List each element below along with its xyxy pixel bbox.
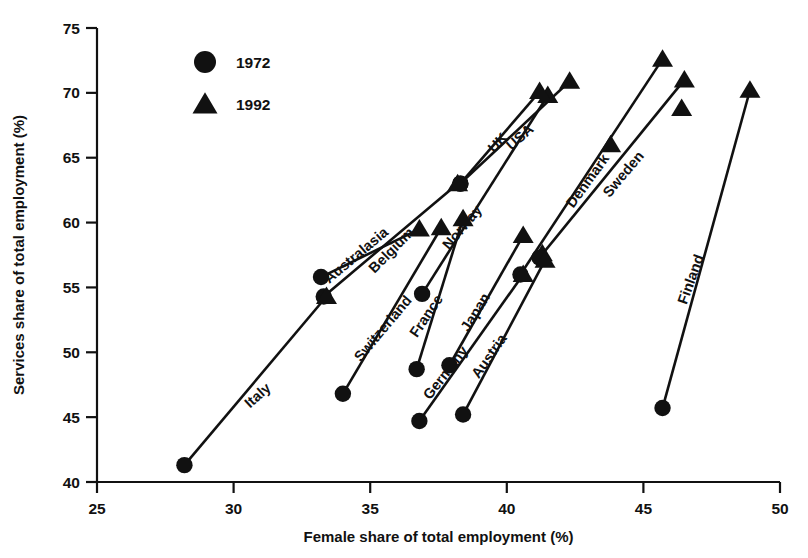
country-label-finland: Finland — [674, 252, 707, 306]
data-point-1972-italy — [176, 457, 192, 473]
country-arrow-sweden — [540, 80, 685, 258]
legend-marker-circle — [194, 51, 216, 73]
x-tick-label: 35 — [362, 500, 380, 517]
y-axis-title: Services share of total employment (%) — [10, 115, 27, 395]
data-point-1972-switzerland — [335, 386, 351, 402]
data-point-1972-finland — [654, 400, 670, 416]
legend-label-1972: 1972 — [236, 54, 270, 71]
data-point-1992 — [671, 98, 692, 116]
country-label-denmark: Denmark — [563, 150, 613, 210]
y-tick-label: 45 — [63, 409, 81, 426]
x-tick-label: 30 — [225, 500, 242, 517]
data-point-1992 — [600, 135, 621, 153]
data-point-1992-japan — [513, 226, 534, 244]
country-label-japan: Japan — [457, 290, 493, 334]
data-point-1992-finland — [739, 80, 760, 98]
data-point-1972-france — [408, 361, 424, 377]
legend-label-1992: 1992 — [236, 96, 270, 113]
x-axis-title: Female share of total employment (%) — [303, 528, 573, 545]
country-arrow-italy — [184, 297, 326, 466]
connector-line — [184, 297, 326, 466]
y-tick-label: 70 — [63, 84, 80, 101]
data-point-1992-denmark — [652, 49, 673, 67]
chart-root: 4045505560657075253035404550Female share… — [0, 0, 808, 558]
country-label-germany: Germany — [420, 343, 471, 402]
country-label-usa: USA — [503, 121, 537, 154]
connector-line — [663, 90, 750, 408]
y-tick-label: 75 — [63, 20, 81, 37]
connector-line — [540, 80, 685, 258]
x-tick-label: 45 — [635, 500, 653, 517]
scatter-chart: 4045505560657075253035404550Female share… — [0, 0, 808, 558]
y-tick-label: 50 — [63, 344, 80, 361]
data-point-1972-germany — [411, 413, 427, 429]
legend-marker-triangle — [193, 92, 218, 113]
data-point-1992-usa — [559, 71, 580, 89]
country-label-switzerland: Switzerland — [351, 292, 415, 364]
x-tick-label: 50 — [771, 500, 788, 517]
country-arrow-finland — [663, 90, 750, 408]
x-tick-label: 40 — [498, 500, 515, 517]
data-point-1972-austria — [455, 406, 471, 422]
y-tick-label: 60 — [63, 214, 80, 231]
country-label-italy: Italy — [241, 380, 273, 411]
y-tick-label: 55 — [63, 279, 81, 296]
x-tick-label: 25 — [88, 500, 106, 517]
country-label-austria: Austria — [468, 330, 510, 381]
y-tick-label: 40 — [63, 474, 80, 491]
data-point-1992-sweden — [674, 70, 695, 88]
y-tick-label: 65 — [63, 149, 81, 166]
axis-lines — [97, 28, 780, 482]
